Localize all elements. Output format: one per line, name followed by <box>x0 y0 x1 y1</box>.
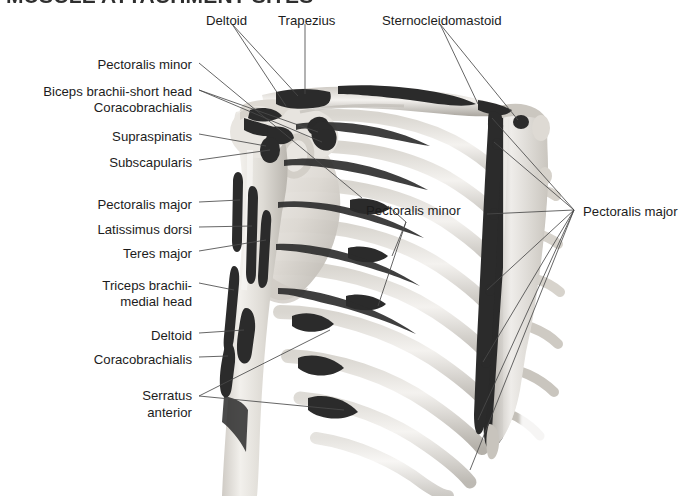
attachment-sternocleidomastoid-sternum <box>513 115 529 129</box>
attachment-serratus-anterior-rib7 <box>308 396 358 419</box>
figure-canvas: MUSCLE ATTACHMENT SITES <box>0 0 690 496</box>
label-coracobrachialis-lower: Coracobrachialis <box>0 352 192 367</box>
label-supraspinatus: Supraspinatis <box>0 129 192 144</box>
label-sternocleidomastoid: Sternocleidomastoid <box>382 13 502 28</box>
label-biceps-brachii-short-head: Biceps brachii-short head <box>0 84 192 99</box>
attachment-pectoralis-major-rib4 <box>481 356 491 368</box>
label-deltoid-lower: Deltoid <box>0 328 192 343</box>
label-triceps-brachii-line1: Triceps brachii- <box>0 278 192 293</box>
attachment-pectoralis-major-rib2 <box>489 208 499 220</box>
attachment-pectoralis-major-humerus <box>232 172 243 252</box>
label-pectoralis-minor-left: Pectoralis minor <box>0 57 192 72</box>
attachment-pectoralis-major-rib3 <box>485 284 495 296</box>
label-deltoid-top: Deltoid <box>206 13 247 28</box>
attachment-supraspinatus-tubercle <box>260 137 280 163</box>
label-coracobrachialis-upper: Coracobrachialis <box>0 100 192 115</box>
label-triceps-brachii-line2: medial head <box>0 294 192 309</box>
label-pectoralis-major-left: Pectoralis major <box>0 197 192 212</box>
attachment-deltoid-clavicle <box>276 89 331 109</box>
label-subscapularis: Subscapularis <box>0 155 192 170</box>
label-trapezius: Trapezius <box>278 13 335 28</box>
label-serratus-anterior-line2: anterior <box>0 405 192 420</box>
attachment-pectoralis-major-rib1 <box>492 138 502 150</box>
label-pectoralis-major-right: Pectoralis major <box>583 204 678 219</box>
label-teres-major: Teres major <box>0 246 192 261</box>
label-serratus-anterior-line1: Serratus <box>0 388 192 403</box>
label-pectoralis-minor-center: Pectoralis minor <box>366 203 461 218</box>
label-latissimus-dorsi: Latissimus dorsi <box>0 222 192 237</box>
muscle-attachment-sites <box>220 85 529 452</box>
